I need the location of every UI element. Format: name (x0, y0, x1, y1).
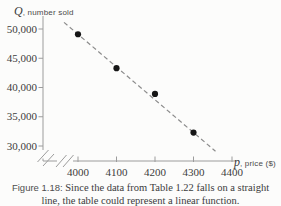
x-axis-title: p, price ($) (234, 152, 276, 170)
y-tick-label: 40,000 (7, 81, 38, 93)
data-point (190, 129, 196, 135)
y-tick-label: 45,000 (7, 52, 38, 64)
x-tick-label: 4200 (144, 166, 167, 178)
y-axis-break-icon (43, 154, 54, 166)
figure-caption-line2: line, the table could represent a linear… (0, 194, 281, 206)
data-point (113, 65, 119, 71)
y-axis-descriptor: , number sold (23, 8, 74, 17)
x-tick-label: 4300 (183, 166, 206, 178)
y-axis-title: Q, number sold (14, 1, 74, 19)
data-point (152, 91, 158, 97)
y-axis-variable: Q (14, 4, 23, 18)
y-tick-label: 35,000 (7, 110, 38, 122)
x-tick-label: 4000 (67, 166, 90, 178)
figure-caption-line1: Since the data from Table 1.22 falls on … (63, 182, 269, 193)
figure-1-18: 4000410042004300440050,00045,00040,00035… (0, 0, 281, 206)
x-tick-label: 4100 (106, 166, 129, 178)
figure-caption-number: Figure 1.18: (12, 182, 63, 193)
y-tick-label: 30,000 (7, 140, 38, 152)
data-point (75, 31, 81, 37)
x-axis-descriptor: , price ($) (240, 159, 276, 168)
figure-caption: Figure 1.18: Since the data from Table 1… (0, 181, 281, 206)
y-tick-label: 50,000 (7, 23, 38, 35)
